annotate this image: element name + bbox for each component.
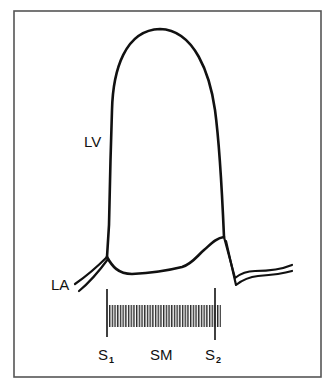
la-pressure-curve-left-inner [79, 259, 108, 291]
systolic-murmur-band [109, 305, 221, 327]
s2-label: S2 [205, 347, 221, 362]
la-label: LA [51, 277, 69, 292]
la-pressure-curve-systole [107, 237, 224, 274]
la-pressure-curve-right-outer [224, 237, 292, 278]
s2-label-main: S [205, 346, 215, 363]
diagram-canvas: LV LA S1 SM S2 [0, 0, 330, 384]
s1-label: S1 [98, 347, 114, 362]
pressure-diagram [0, 0, 330, 384]
s1-label-main: S [98, 346, 108, 363]
lv-pressure-curve [107, 29, 224, 257]
lv-label: LV [84, 134, 101, 149]
s2-label-subscript: 2 [216, 355, 221, 365]
s1-label-subscript: 1 [109, 355, 114, 365]
sm-label: SM [150, 347, 173, 362]
